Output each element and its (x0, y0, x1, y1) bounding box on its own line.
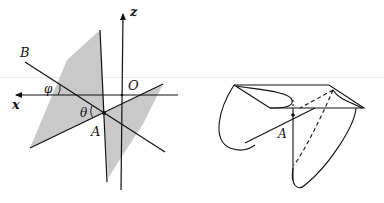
right-inner-curve (333, 90, 362, 108)
point-b-label: B (20, 46, 30, 59)
point-a-dot (102, 111, 106, 115)
angle-theta-label: θ (80, 107, 87, 119)
origin-dot (121, 94, 124, 97)
x-axis-label: x (12, 98, 20, 111)
z-axis-label: z (130, 5, 137, 18)
z-axis (121, 14, 123, 190)
right-panel (219, 85, 364, 188)
angle-phi-label: φ (44, 83, 52, 95)
origin-label: O (128, 79, 139, 92)
point-a-dot-right (291, 113, 295, 117)
diagram-canvas (0, 0, 384, 203)
point-a-label: A (91, 125, 100, 138)
left-panel (16, 14, 178, 190)
right-point-a-label: A (278, 128, 287, 140)
right-dashed-edge-1 (300, 90, 333, 108)
right-bowl (292, 108, 356, 188)
